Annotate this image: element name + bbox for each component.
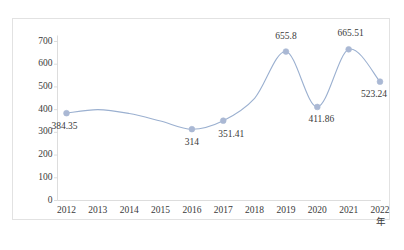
y-axis-tick-label: 0 <box>20 196 53 206</box>
x-axis-tick-label: 2015 <box>145 206 177 216</box>
x-axis-tick-label: 2012 <box>51 206 83 216</box>
x-axis-tick-label: 2018 <box>239 206 271 216</box>
x-axis-unit-label: 年 <box>376 218 386 228</box>
data-point-label: 655.8 <box>262 32 310 42</box>
x-axis-tick-label: 2014 <box>113 206 145 216</box>
data-point-label: 314 <box>168 138 216 148</box>
data-point-label: 411.86 <box>297 115 345 125</box>
data-point-label: 384.35 <box>41 122 89 132</box>
y-axis-tick-label: 200 <box>20 150 53 160</box>
data-point-label: 665.51 <box>327 29 375 39</box>
data-point-marker <box>220 118 226 124</box>
x-axis-tick-label: 2022 <box>364 206 396 216</box>
x-axis-tick-label: 2017 <box>207 206 239 216</box>
data-point-label: 523.24 <box>350 90 398 100</box>
chart-container: 0100200300400500600700201220132014201520… <box>0 0 404 250</box>
data-point-marker <box>314 104 320 110</box>
data-point-marker <box>346 46 352 52</box>
x-axis-tick-label: 2016 <box>176 206 208 216</box>
data-point-marker <box>377 79 383 85</box>
x-axis-tick-label: 2019 <box>270 206 302 216</box>
data-point-marker <box>64 110 70 116</box>
x-axis-tick-label: 2013 <box>82 206 114 216</box>
data-point-label: 351.41 <box>207 130 255 140</box>
x-axis-tick-label: 2020 <box>301 206 333 216</box>
y-axis-tick-label: 400 <box>20 105 53 115</box>
y-axis-tick-label: 100 <box>20 173 53 183</box>
y-axis-tick-label: 500 <box>20 82 53 92</box>
y-axis-tick-label: 700 <box>20 37 53 47</box>
y-axis-tick-label: 600 <box>20 59 53 69</box>
data-point-marker <box>283 49 289 55</box>
data-point-marker <box>189 126 195 132</box>
x-axis-tick-label: 2021 <box>333 206 365 216</box>
